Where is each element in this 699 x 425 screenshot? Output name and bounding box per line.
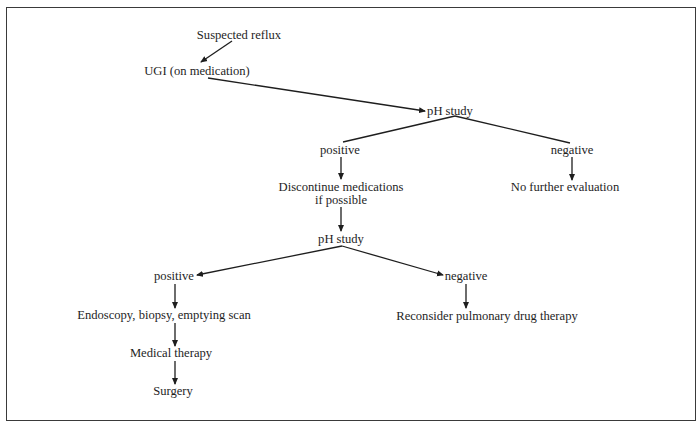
node-suspected-reflux: Suspected reflux: [197, 29, 281, 42]
arrow-ph2-to-positive: [197, 246, 342, 275]
node-ph-study-2: pH study: [318, 233, 364, 246]
arrow-ugi-to-ph1: [208, 78, 425, 111]
node-ugi: UGI (on medication): [144, 65, 250, 78]
node-reconsider-pulmonary: Reconsider pulmonary drug therapy: [396, 310, 578, 323]
node-no-further-evaluation: No further evaluation: [511, 181, 619, 194]
node-negative-1: negative: [551, 144, 594, 157]
node-surgery: Surgery: [153, 385, 193, 398]
node-positive-1: positive: [320, 144, 360, 157]
node-endoscopy: Endoscopy, biopsy, emptying scan: [77, 309, 251, 322]
node-medical-therapy: Medical therapy: [130, 347, 212, 360]
node-ph-study-1: pH study: [427, 105, 473, 118]
arrow-suspected-to-ugi: [201, 41, 232, 62]
node-positive-2: positive: [154, 270, 194, 283]
connector-lines: [0, 0, 699, 425]
node-discontinue-line2: if possible: [315, 194, 367, 207]
node-negative-2: negative: [445, 270, 488, 283]
arrow-ph2-to-negative: [342, 246, 443, 275]
line-ph1-to-negative: [455, 116, 570, 143]
line-ph1-to-positive: [343, 116, 455, 142]
